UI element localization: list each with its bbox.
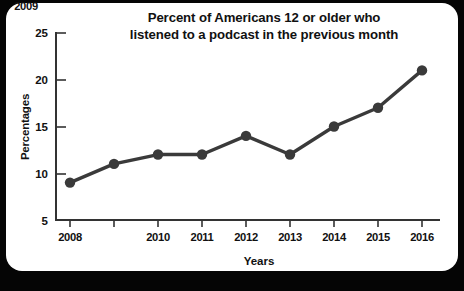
y-axis-ticks: [56, 33, 66, 220]
data-point-2015: [373, 103, 383, 113]
x-axis-ticks: [70, 220, 422, 227]
line-chart-plot: [0, 0, 464, 291]
data-point-2012: [241, 131, 251, 141]
screenshot-root: Percent of Americans 12 or older who lis…: [0, 0, 464, 291]
data-point-2011: [197, 149, 207, 159]
data-point-2016: [417, 65, 427, 75]
chart-axes: [56, 32, 440, 221]
data-series-markers: [65, 65, 427, 188]
data-point-2014: [329, 121, 339, 131]
data-point-2010: [153, 149, 163, 159]
data-point-2013: [285, 149, 295, 159]
data-point-2008: [65, 177, 75, 187]
data-series-line: [70, 70, 422, 182]
data-point-2009: [109, 159, 119, 169]
